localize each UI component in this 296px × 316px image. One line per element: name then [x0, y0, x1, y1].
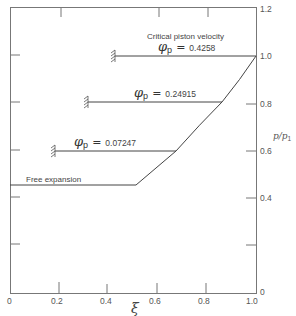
x-tick-0.8: 0.8 [198, 296, 210, 306]
x-tick-0.4: 0.4 [100, 296, 112, 306]
x-tick-0.6: 0.6 [149, 296, 161, 306]
y-tick-0: 0 [260, 287, 265, 297]
right-ticks [246, 104, 256, 245]
y-tick-0.8: 0.8 [260, 99, 272, 109]
x-tick-0.2: 0.2 [51, 296, 63, 306]
chart: 1.2 1.0 0.8 0.6 0.4 0 0 0.2 0.4 0.6 0.8 … [0, 0, 296, 316]
bottom-ticks [59, 282, 206, 293]
x-axis-title: ξ [131, 300, 140, 316]
y-tick-0.6: 0.6 [260, 146, 272, 156]
x-tick-1.0: 1.0 [246, 296, 258, 306]
phi-label-0.07247: φp=0.07247 [74, 134, 136, 150]
x-tick-0: 0 [7, 296, 12, 306]
y-tick-0.4: 0.4 [260, 193, 272, 203]
y-tick-1.0: 1.0 [260, 51, 272, 61]
piston-wall-icon [51, 145, 55, 157]
piston-wall-icon [111, 50, 115, 62]
y-tick-1.2: 1.2 [260, 4, 272, 14]
left-ticks [10, 55, 20, 244]
y-axis-title: p/p1 [273, 131, 292, 142]
phi-label-0.24915: φp=0.24915 [134, 85, 196, 101]
top-ticks [61, 8, 208, 17]
free-expansion-label: Free expansion [26, 175, 81, 184]
expansion-curve [136, 56, 256, 185]
phi-label-0.4258: φp=0.4258 [158, 39, 216, 55]
piston-wall-icon [84, 96, 88, 108]
